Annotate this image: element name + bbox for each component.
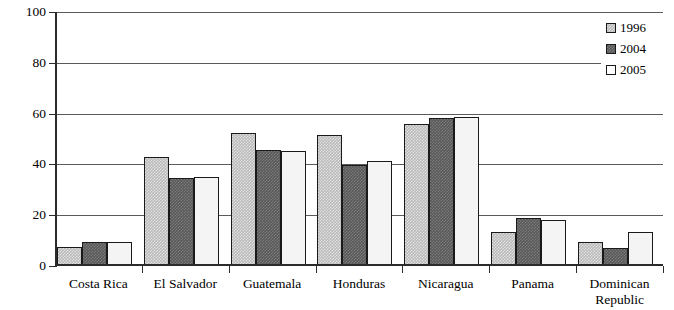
x-axis-labels: Costa RicaEl SalvadorGuatemalaHondurasNi… xyxy=(55,276,663,310)
x-axis-label: Guatemala xyxy=(229,276,316,292)
bar-chart: Percentage 020406080100 Costa RicaEl Sal… xyxy=(0,0,674,310)
plot-area: 020406080100 xyxy=(55,12,663,266)
bar xyxy=(144,157,169,266)
bar xyxy=(231,133,256,266)
y-tick-label: 80 xyxy=(33,56,47,70)
bar-group xyxy=(142,12,229,266)
bar xyxy=(169,178,194,266)
x-tick-mark xyxy=(402,266,403,273)
y-tick-label: 40 xyxy=(33,158,47,172)
bar-group xyxy=(316,12,403,266)
bars-layer xyxy=(55,12,663,266)
legend-swatch xyxy=(606,23,616,33)
x-tick-mark xyxy=(142,266,143,273)
legend-swatch xyxy=(606,65,616,75)
y-axis-line xyxy=(55,12,57,267)
bar xyxy=(491,232,516,266)
y-tick-label: 0 xyxy=(39,259,46,273)
bar xyxy=(367,161,392,266)
y-tick-label: 60 xyxy=(33,107,47,121)
bar-group xyxy=(229,12,316,266)
y-tick-label: 20 xyxy=(33,208,47,222)
bar xyxy=(578,242,603,266)
bar xyxy=(194,177,219,266)
bar xyxy=(454,117,479,266)
x-tick-mark xyxy=(489,266,490,273)
x-tick-mark xyxy=(229,266,230,273)
x-axis-label: Costa Rica xyxy=(55,276,142,292)
bar xyxy=(107,242,132,266)
y-tick-label: 100 xyxy=(26,5,46,19)
bar-group xyxy=(402,12,489,266)
bar xyxy=(82,242,107,266)
x-tick-mark xyxy=(576,266,577,273)
bar xyxy=(404,124,429,266)
bar xyxy=(516,218,541,266)
x-tick-mark xyxy=(316,266,317,273)
bar-group xyxy=(489,12,576,266)
x-axis-label: El Salvador xyxy=(142,276,229,292)
bar xyxy=(342,165,367,266)
bar xyxy=(317,135,342,266)
x-axis-label: Nicaragua xyxy=(402,276,489,292)
x-axis-line xyxy=(55,264,663,266)
bar xyxy=(429,118,454,266)
legend-label: 1996 xyxy=(620,21,646,34)
legend-item: 1996 xyxy=(606,17,661,38)
legend-label: 2004 xyxy=(620,42,646,55)
legend-item: 2005 xyxy=(606,59,661,80)
bar xyxy=(628,232,653,266)
legend: 199620042005 xyxy=(601,14,663,84)
legend-item: 2004 xyxy=(606,38,661,59)
legend-swatch xyxy=(606,44,616,54)
x-axis-label: Honduras xyxy=(316,276,403,292)
bar-group xyxy=(55,12,142,266)
x-tick-mark xyxy=(663,266,664,273)
bar xyxy=(281,151,306,266)
legend-label: 2005 xyxy=(620,63,646,76)
bar xyxy=(541,220,566,266)
x-axis-label: Panama xyxy=(489,276,576,292)
x-axis-label: Dominican Republic xyxy=(576,276,663,308)
bar xyxy=(256,150,281,266)
